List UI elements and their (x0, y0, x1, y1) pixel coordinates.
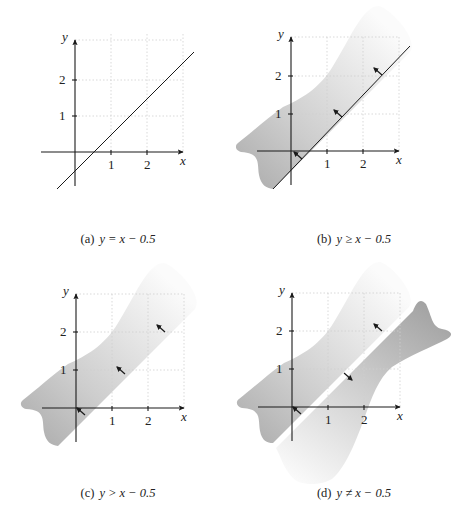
panel-c: 1 2 1 2 x y (c)y > x − 0.5 (0, 260, 236, 520)
y-tick-2: 2 (59, 72, 66, 87)
y-axis-label: y (61, 283, 69, 298)
y-axis-label: y (277, 282, 285, 297)
caption-relation: y ≥ x − 0.5 (337, 232, 392, 246)
y-axis-label: y (60, 29, 68, 44)
x-tick-2: 2 (144, 157, 151, 172)
caption-c: (c)y > x − 0.5 (0, 486, 236, 501)
panel-b: 1 2 1 2 x y (b)y ≥ x − 0.5 (236, 0, 472, 260)
caption-label: (a) (81, 232, 95, 246)
x-tick-1: 1 (325, 412, 332, 427)
x-tick-1: 1 (108, 157, 115, 172)
caption-d: (d)y ≠ x − 0.5 (236, 486, 472, 501)
caption-a: (a)y = x − 0.5 (0, 232, 236, 247)
x-tick-2: 2 (145, 413, 152, 428)
x-tick-2: 2 (360, 156, 367, 171)
plot-c: 1 2 1 2 x y (0, 260, 236, 500)
y-tick-1: 1 (275, 106, 282, 121)
caption-b: (b)y ≥ x − 0.5 (236, 232, 472, 247)
x-axis-label: x (395, 152, 402, 167)
y-tick-1: 1 (60, 362, 67, 377)
grid (75, 34, 183, 152)
y-tick-1: 1 (59, 108, 66, 123)
y-axis-label: y (276, 26, 284, 41)
caption-relation: y = x − 0.5 (99, 232, 155, 246)
caption-label: (b) (317, 232, 332, 246)
y-tick-1: 1 (276, 361, 283, 376)
y-tick-2: 2 (276, 323, 283, 338)
caption-label: (d) (317, 486, 332, 500)
plot-b: 1 2 1 2 x y (236, 0, 472, 240)
x-axis-label: x (396, 408, 403, 423)
caption-relation: y ≠ x − 0.5 (337, 486, 392, 500)
caption-label: (c) (81, 486, 95, 500)
plot-a: 1 2 1 2 x y (0, 0, 236, 240)
plot-d: 1 2 1 2 x y (236, 260, 472, 500)
boundary-line (57, 52, 194, 189)
y-tick-2: 2 (60, 324, 67, 339)
x-axis-label: x (180, 409, 187, 424)
x-axis-label: x (179, 153, 186, 168)
panel-d: 1 2 1 2 x y (d)y ≠ x − 0.5 (236, 260, 472, 520)
caption-relation: y > x − 0.5 (99, 486, 155, 500)
x-tick-2: 2 (361, 412, 368, 427)
x-tick-1: 1 (324, 156, 331, 171)
x-tick-1: 1 (109, 413, 116, 428)
panel-a: 1 2 1 2 x y (a)y = x − 0.5 (0, 0, 236, 260)
y-tick-2: 2 (275, 68, 282, 83)
